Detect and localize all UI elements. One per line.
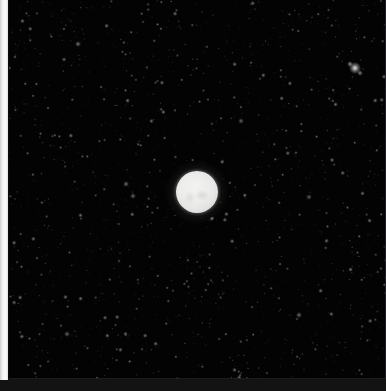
bottom-margin-strip (0, 379, 386, 391)
primary-object-detector-striping (176, 171, 218, 213)
left-border-strip (0, 0, 8, 380)
frame-bottom-edge (9, 378, 386, 379)
image-viewport (0, 0, 386, 391)
primary-object-disc (176, 171, 218, 213)
primary-object (166, 161, 228, 223)
